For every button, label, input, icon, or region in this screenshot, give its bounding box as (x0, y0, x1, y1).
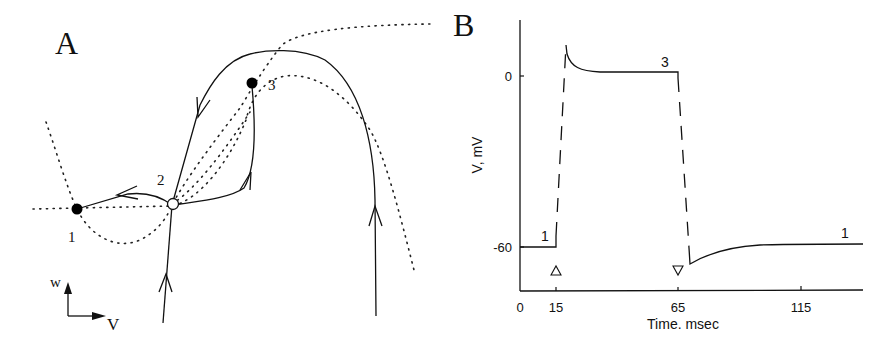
v-axis-label: V (107, 315, 120, 334)
y-axis-label: V, mV (469, 136, 485, 173)
x-tick-label: 0 (516, 300, 523, 315)
x-tick-label: 65 (671, 300, 685, 315)
x-tick-label: 15 (549, 300, 563, 315)
fixed-point-2 (168, 199, 179, 210)
state-label-3: 3 (661, 54, 669, 70)
state-label-1-end: 1 (841, 225, 849, 241)
dotted-branch (172, 112, 250, 204)
stable-manifold-lower (163, 205, 172, 323)
point-label-3: 3 (268, 77, 276, 93)
right-arrow-icon (92, 312, 106, 320)
fixed-point-1 (72, 204, 83, 215)
panel-a: A (33, 24, 430, 334)
panel-b: B 0 -60 0 15 65 115 Time. msec V, mV 1 3 (453, 7, 863, 332)
panel-b-label: B (453, 7, 474, 43)
x-axis (520, 290, 863, 291)
figure: A (0, 0, 891, 343)
trace-upstroke (556, 45, 566, 236)
w-axis-label: w (50, 274, 61, 290)
arrow-icon (240, 172, 251, 190)
point-label-2: 2 (157, 172, 165, 188)
trajectories (77, 51, 376, 323)
fixed-point-3 (247, 78, 258, 89)
trace-rest-after (689, 244, 863, 264)
panel-a-label: A (55, 25, 78, 61)
arrowheads (117, 97, 382, 292)
w-nullcline (33, 76, 414, 270)
arrow-icon (117, 186, 138, 199)
point-label-1: 1 (68, 229, 76, 245)
x-axis-label: Time. msec (647, 316, 719, 332)
voltage-trace (520, 45, 863, 264)
pulse-off-triangle-icon (673, 266, 683, 275)
pulse-on-triangle-icon (551, 266, 561, 275)
axes-indicator: w V (50, 274, 120, 334)
y-tick-label: 0 (505, 69, 512, 84)
state-label-1: 1 (541, 228, 549, 244)
y-tick-label: -60 (493, 240, 512, 255)
x-tick-label: 115 (791, 300, 812, 315)
trace-downstroke (678, 78, 689, 248)
up-arrow-icon (64, 282, 72, 294)
trace-rest-before (520, 236, 556, 247)
